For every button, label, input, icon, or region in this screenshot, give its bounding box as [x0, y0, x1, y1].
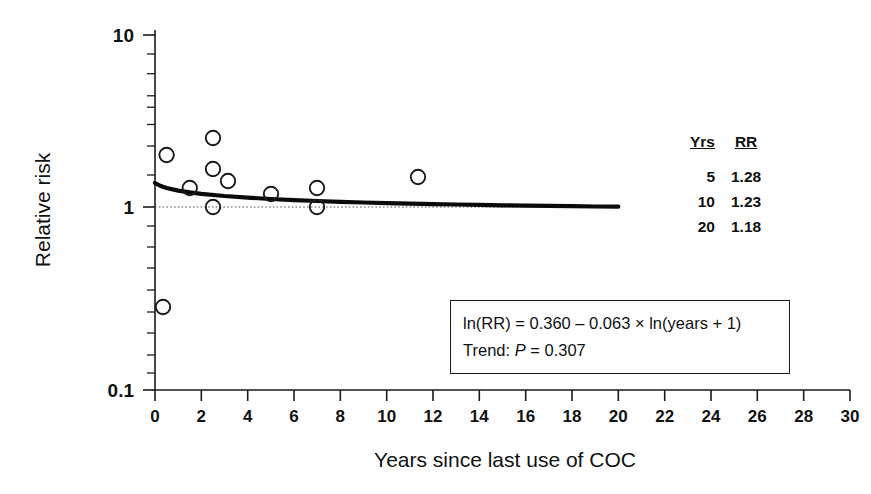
data-point	[156, 300, 170, 314]
cell-yrs: 5	[690, 164, 731, 189]
data-point	[411, 170, 425, 184]
trend-pvalue-line: Trend: P = 0.307	[463, 337, 777, 364]
x-tick-label: 4	[243, 407, 253, 426]
x-axis-title-text: Years since last use of COC	[374, 448, 636, 471]
table-header-yrs: Yrs	[690, 133, 731, 164]
y-axis-title-text: Relative risk	[31, 153, 55, 267]
x-tick-label: 8	[336, 407, 345, 426]
x-tick-label: 0	[150, 407, 159, 426]
x-tick-label: 14	[470, 407, 489, 426]
x-axis-ticks	[155, 390, 850, 401]
x-tick-label: 18	[563, 407, 582, 426]
rr-summary-table: Yrs RR 5 1.28 10 1.23 20 1.18	[690, 133, 761, 239]
table-row: 10 1.23	[690, 189, 761, 214]
cell-rr: 1.28	[731, 164, 761, 189]
x-axis-tick-labels: 0 2 4 6 8 10 12 14 16 18 20 22 24 26 28 …	[150, 407, 859, 426]
x-tick-label: 28	[794, 407, 813, 426]
x-tick-label: 16	[516, 407, 535, 426]
x-tick-label: 6	[289, 407, 298, 426]
data-point	[310, 181, 324, 195]
y-axis-tick-labels: 10 1 0.1	[108, 25, 135, 401]
x-tick-label: 12	[424, 407, 443, 426]
data-points	[156, 131, 425, 314]
cell-yrs: 20	[690, 214, 731, 239]
x-tick-label: 24	[702, 407, 721, 426]
chart-canvas: 0 2 4 6 8 10 12 14 16 18 20 22 24 26 28 …	[0, 0, 871, 494]
table-header-rr: RR	[731, 133, 761, 164]
y-axis-major-ticks	[143, 35, 155, 390]
y-axis-minor-ticks	[147, 54, 155, 373]
y-tick-label-top: 10	[113, 25, 134, 46]
data-point	[159, 148, 173, 162]
y-axis-title: Relative risk	[18, 95, 68, 325]
y-tick-label-bottom: 0.1	[108, 380, 135, 401]
data-point	[206, 131, 220, 145]
equation-annotation-box: ln(RR) = 0.360 – 0.063 × ln(years + 1) T…	[450, 300, 790, 374]
table-header-row: Yrs RR	[690, 133, 761, 164]
data-point	[206, 162, 220, 176]
p-symbol: P	[515, 341, 526, 359]
x-tick-label: 22	[655, 407, 674, 426]
x-tick-label: 2	[197, 407, 206, 426]
equation-line: ln(RR) = 0.360 – 0.063 × ln(years + 1)	[463, 310, 777, 337]
table-row: 5 1.28	[690, 164, 761, 189]
y-tick-label-mid: 1	[123, 197, 134, 218]
p-value: = 0.307	[526, 341, 586, 359]
x-axis-title: Years since last use of COC	[155, 448, 855, 472]
cell-rr: 1.18	[731, 214, 761, 239]
data-point	[221, 174, 235, 188]
x-tick-label: 30	[841, 407, 860, 426]
table-row: 20 1.18	[690, 214, 761, 239]
x-tick-label: 10	[377, 407, 396, 426]
x-tick-label: 20	[609, 407, 628, 426]
cell-rr: 1.23	[731, 189, 761, 214]
figure-container: 0 2 4 6 8 10 12 14 16 18 20 22 24 26 28 …	[0, 0, 871, 494]
trend-prefix: Trend:	[463, 341, 515, 359]
x-tick-label: 26	[748, 407, 767, 426]
cell-yrs: 10	[690, 189, 731, 214]
rr-table-element: Yrs RR 5 1.28 10 1.23 20 1.18	[690, 133, 761, 239]
